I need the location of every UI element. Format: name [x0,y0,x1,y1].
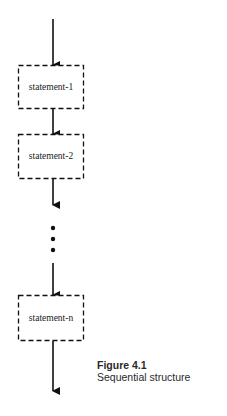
statement-n-label: statement-n [29,313,74,323]
statement-box-1: statement-1 [19,66,84,109]
statement-box-n: statement-n [19,296,84,341]
dot [51,237,55,241]
ellipsis-dots [51,226,55,252]
figure-number: Figure 4.1 [97,359,190,371]
figure-title: Sequential structure [97,371,190,383]
dot [51,226,55,230]
dot [51,248,55,252]
statement-box-2: statement-2 [19,135,84,179]
figure-caption: Figure 4.1 Sequential structure [97,359,190,383]
statement-1-label: statement-1 [29,82,74,92]
flowchart: statement-1 statement-2 statement-n [0,0,227,416]
statement-2-label: statement-2 [29,151,74,161]
